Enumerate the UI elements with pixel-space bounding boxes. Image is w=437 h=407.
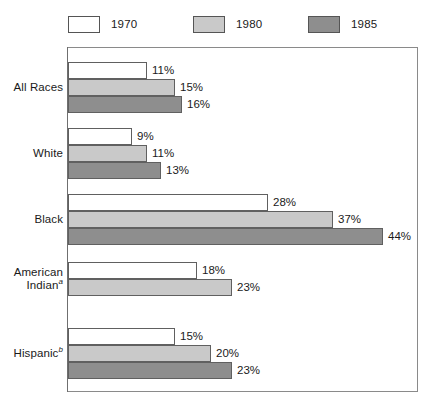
bar-row: 9% bbox=[68, 128, 418, 145]
bar-1970 bbox=[68, 128, 132, 145]
chart-legend: 1970 1980 1985 bbox=[0, 0, 437, 44]
bar-group: White9%11%13% bbox=[0, 128, 437, 183]
bar-value-label: 9% bbox=[137, 129, 154, 144]
bar-row: 16% bbox=[68, 96, 418, 113]
legend-entry-1980: 1980 bbox=[193, 14, 262, 34]
footnote-marker: b bbox=[58, 345, 63, 354]
bar-row: 20% bbox=[68, 345, 418, 362]
bar-1970 bbox=[68, 328, 175, 345]
legend-entry-1970: 1970 bbox=[68, 14, 137, 34]
bar-1970 bbox=[68, 262, 197, 279]
legend-label-1970: 1970 bbox=[111, 18, 137, 30]
legend-label-1985: 1985 bbox=[351, 18, 377, 30]
bar-1980 bbox=[68, 145, 147, 162]
bar-row: 18% bbox=[68, 262, 418, 279]
bar-chart: 1970 1980 1985 All Races11%15%16%White9%… bbox=[0, 0, 437, 407]
bar-value-label: 23% bbox=[237, 363, 260, 378]
bar-value-label: 18% bbox=[202, 263, 225, 278]
bar-1985 bbox=[68, 96, 182, 113]
bar-row: 28% bbox=[68, 194, 418, 211]
legend-swatch-1970 bbox=[68, 16, 100, 33]
footnote-marker: a bbox=[58, 277, 63, 286]
bar-1985 bbox=[68, 228, 383, 245]
bar-group: All Races11%15%16% bbox=[0, 62, 437, 117]
bar-1980 bbox=[68, 211, 333, 228]
legend-swatch-1980 bbox=[193, 16, 225, 33]
bar-1980 bbox=[68, 345, 211, 362]
bar-row: 23% bbox=[68, 279, 418, 296]
bar-1985 bbox=[68, 162, 161, 179]
legend-entry-1985: 1985 bbox=[308, 14, 377, 34]
category-label: White bbox=[33, 147, 63, 160]
bar-group: Hispanicb15%20%23% bbox=[0, 328, 437, 383]
bar-value-label: 15% bbox=[180, 329, 203, 344]
bar-value-label: 11% bbox=[152, 63, 174, 78]
bar-row: 44% bbox=[68, 228, 418, 245]
legend-swatch-1985 bbox=[308, 16, 340, 33]
bar-value-label: 13% bbox=[166, 163, 189, 178]
bar-group: Black28%37%44% bbox=[0, 194, 437, 249]
bar-value-label: 15% bbox=[180, 80, 203, 95]
legend-label-1980: 1980 bbox=[236, 18, 262, 30]
bar-1970 bbox=[68, 62, 147, 79]
category-label: Black bbox=[34, 213, 63, 226]
bar-row: 11% bbox=[68, 145, 418, 162]
bar-group: AmericanIndiana18%23% bbox=[0, 262, 437, 300]
bar-1980 bbox=[68, 279, 232, 296]
bar-row: 15% bbox=[68, 328, 418, 345]
bar-row: 15% bbox=[68, 79, 418, 96]
bar-row: 23% bbox=[68, 362, 418, 379]
bar-value-label: 20% bbox=[216, 346, 239, 361]
bar-1970 bbox=[68, 194, 268, 211]
category-label: Hispanicb bbox=[14, 347, 63, 360]
bar-value-label: 16% bbox=[187, 97, 210, 112]
bar-1980 bbox=[68, 79, 175, 96]
bar-1985 bbox=[68, 362, 232, 379]
bar-row: 13% bbox=[68, 162, 418, 179]
bar-value-label: 23% bbox=[237, 280, 260, 295]
bar-value-label: 37% bbox=[338, 212, 361, 227]
bar-value-label: 28% bbox=[273, 195, 296, 210]
category-label: All Races bbox=[14, 81, 63, 94]
bar-value-label: 11% bbox=[152, 146, 174, 161]
bar-row: 11% bbox=[68, 62, 418, 79]
bar-row: 37% bbox=[68, 211, 418, 228]
bar-value-label: 44% bbox=[388, 229, 411, 244]
category-label: AmericanIndiana bbox=[14, 266, 63, 292]
